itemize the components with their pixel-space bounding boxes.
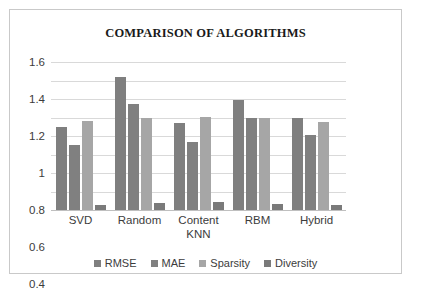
x-axis-label-line: Hybrid bbox=[287, 213, 346, 227]
bar-group bbox=[228, 62, 287, 210]
bar bbox=[292, 118, 303, 211]
x-axis-label-line: RBM bbox=[228, 213, 287, 227]
plot-area: 1.61.41.210.80.60.40.20 bbox=[51, 62, 346, 210]
bar-group bbox=[51, 62, 110, 210]
bar bbox=[272, 204, 283, 210]
x-axis-label: SVD bbox=[51, 213, 110, 241]
legend-label: Sparsity bbox=[210, 257, 250, 269]
legend-swatch-icon bbox=[264, 260, 271, 267]
bar bbox=[213, 202, 224, 210]
bar bbox=[69, 145, 80, 210]
bar bbox=[305, 135, 316, 210]
bar-group bbox=[169, 62, 228, 210]
y-axis-tick-label: 1 bbox=[39, 167, 45, 179]
bar bbox=[233, 100, 244, 210]
x-axis-labels: SVDRandomContentKNNRBMHybrid bbox=[51, 213, 346, 241]
bar bbox=[56, 127, 67, 210]
bar bbox=[95, 205, 106, 210]
x-axis-label: ContentKNN bbox=[169, 213, 228, 241]
x-axis-label: RBM bbox=[228, 213, 287, 241]
bar bbox=[187, 142, 198, 210]
x-axis-label-line: Random bbox=[110, 213, 169, 227]
y-axis-tick-label: 1.2 bbox=[29, 130, 45, 142]
x-axis-label: Random bbox=[110, 213, 169, 241]
bar bbox=[115, 77, 126, 210]
legend-item[interactable]: Sparsity bbox=[199, 257, 250, 269]
x-axis-label-line: Content bbox=[169, 213, 228, 227]
y-axis-tick-label: 1.6 bbox=[29, 56, 45, 68]
legend-item[interactable]: RMSE bbox=[94, 257, 137, 269]
chart-container: COMPARISON OF ALGORITHMS 1.61.41.210.80.… bbox=[9, 9, 402, 274]
legend-item[interactable]: MAE bbox=[151, 257, 186, 269]
legend-label: RMSE bbox=[105, 257, 137, 269]
bar bbox=[318, 122, 329, 210]
bar bbox=[128, 104, 139, 210]
y-axis-tick-label: 0.8 bbox=[29, 204, 45, 216]
chart-title: COMPARISON OF ALGORITHMS bbox=[10, 26, 401, 41]
y-axis-tick-label: 1.4 bbox=[29, 93, 45, 105]
legend-label: Diversity bbox=[275, 257, 317, 269]
legend-swatch-icon bbox=[199, 260, 206, 267]
bar-group bbox=[110, 62, 169, 210]
bar-group bbox=[287, 62, 346, 210]
bar bbox=[154, 203, 165, 210]
legend-swatch-icon bbox=[94, 260, 101, 267]
legend-item[interactable]: Diversity bbox=[264, 257, 317, 269]
x-axis-line: 0 bbox=[51, 210, 346, 211]
y-axis-tick-label: 0.6 bbox=[29, 241, 45, 253]
bar bbox=[331, 205, 342, 210]
bar bbox=[174, 123, 185, 210]
y-axis-tick-label: 0.4 bbox=[29, 278, 45, 290]
bar bbox=[141, 118, 152, 211]
x-axis-label-line: KNN bbox=[169, 227, 228, 241]
chart-legend: RMSEMAESparsityDiversity bbox=[10, 257, 401, 269]
bar bbox=[82, 121, 93, 210]
bar bbox=[259, 118, 270, 211]
bar bbox=[200, 117, 211, 210]
x-axis-label-line: SVD bbox=[51, 213, 110, 227]
legend-label: MAE bbox=[162, 257, 186, 269]
legend-swatch-icon bbox=[151, 260, 158, 267]
bar bbox=[246, 118, 257, 211]
x-axis-label: Hybrid bbox=[287, 213, 346, 241]
bar-groups bbox=[51, 62, 346, 210]
